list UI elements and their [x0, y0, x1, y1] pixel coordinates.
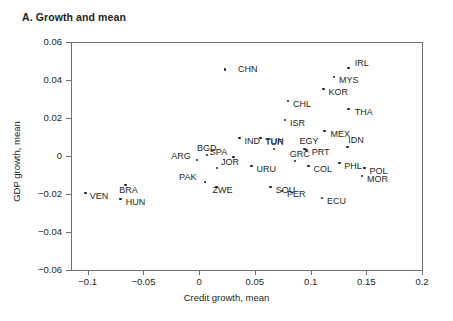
x-axis-title: Credit growth, mean [0, 292, 453, 303]
x-tick-label: −0.1 [63, 276, 113, 287]
data-point-marker [284, 119, 287, 122]
data-point-label: MYS [339, 76, 359, 85]
data-point-marker [333, 76, 336, 79]
data-point-marker [322, 88, 325, 91]
data-point-marker [347, 108, 350, 111]
y-tick [66, 80, 71, 81]
data-point-marker [238, 137, 241, 140]
plot-frame-right [422, 42, 423, 271]
y-tick [66, 232, 71, 233]
y-tick [66, 194, 71, 195]
y-axis-line [71, 42, 72, 271]
x-tick [88, 270, 89, 275]
y-tick-label: 0 [18, 150, 62, 161]
y-tick-label: 0.04 [18, 74, 62, 85]
data-point-label: ECU [327, 197, 346, 206]
data-point-marker [287, 100, 290, 103]
page-title: A. Growth and mean [22, 11, 126, 23]
data-point-marker [119, 198, 122, 201]
data-point-label: PRT [312, 148, 330, 157]
x-tick-label: 0.15 [341, 276, 391, 287]
data-point-label: PAK [179, 173, 196, 182]
data-point-marker [347, 67, 350, 70]
data-point-label: ISR [290, 119, 305, 128]
x-tick-label: 0.1 [286, 276, 336, 287]
x-axis-line [71, 270, 423, 271]
data-point-marker [196, 159, 199, 162]
data-point-label: GRC [290, 150, 310, 159]
x-tick [143, 270, 144, 275]
plot-frame-top [71, 42, 423, 43]
data-point-marker [204, 181, 207, 184]
x-tick-label: 0 [174, 276, 224, 287]
data-point-label: CHN [238, 65, 258, 74]
data-point-marker [338, 162, 341, 165]
data-point-marker [224, 68, 227, 71]
data-point-label: KOR [329, 88, 349, 97]
data-point-label: URU [257, 165, 277, 174]
data-point-label: EGY [300, 137, 319, 146]
data-point-marker [361, 175, 364, 178]
data-point-label: MOR [367, 175, 388, 184]
y-tick [66, 118, 71, 119]
x-tick [255, 270, 256, 275]
x-tick [422, 270, 423, 275]
data-point-label: JOR [221, 158, 239, 167]
data-point-label: MEX [331, 130, 351, 139]
data-point-marker [269, 186, 272, 189]
data-point-label: IDN [348, 136, 364, 145]
y-tick-label: −0.02 [18, 188, 62, 199]
data-point-label: PER [287, 190, 306, 199]
y-tick [66, 156, 71, 157]
data-point-marker [84, 192, 87, 195]
data-point-label: THA [355, 108, 373, 117]
data-point-marker [363, 167, 366, 170]
y-tick [66, 42, 71, 43]
data-point-marker [259, 137, 262, 140]
data-point-marker [346, 146, 349, 149]
data-point-label: ARG [171, 152, 191, 161]
data-point-marker [307, 165, 310, 168]
data-point-label: ZWE [212, 186, 232, 195]
x-tick-label: 0.05 [230, 276, 280, 287]
y-tick-label: 0.02 [18, 112, 62, 123]
data-point-label: SPA [210, 148, 227, 157]
y-tick-label: −0.06 [18, 264, 62, 275]
y-tick-label: −0.04 [18, 226, 62, 237]
x-tick-label: −0.05 [118, 276, 168, 287]
data-point-label: IND [245, 137, 261, 146]
data-point-label: BRA [119, 186, 138, 195]
data-point-label: PHL [344, 162, 362, 171]
x-tick [199, 270, 200, 275]
data-point-marker [323, 130, 326, 133]
y-tick [66, 270, 71, 271]
x-tick [366, 270, 367, 275]
data-point-label: VEN [90, 192, 109, 201]
data-point-label: COL [314, 165, 333, 174]
data-point-label: HUN [126, 198, 146, 207]
data-point-label: TUR [265, 138, 284, 147]
y-axis-title: GDP growth, mean [11, 102, 22, 222]
data-point-marker [321, 197, 324, 200]
x-tick-label: 0.2 [397, 276, 447, 287]
data-point-marker [250, 165, 253, 168]
x-tick [311, 270, 312, 275]
data-point-label: CHL [293, 100, 311, 109]
data-point-marker [273, 148, 276, 151]
data-point-marker [216, 167, 219, 170]
data-point-marker [294, 160, 297, 163]
y-tick-label: 0.06 [18, 36, 62, 47]
data-point-label: IRL [355, 59, 369, 68]
figure-panel-a: A. Growth and mean −0.06−0.04−0.0200.020… [0, 0, 453, 321]
data-point-marker [206, 154, 209, 157]
